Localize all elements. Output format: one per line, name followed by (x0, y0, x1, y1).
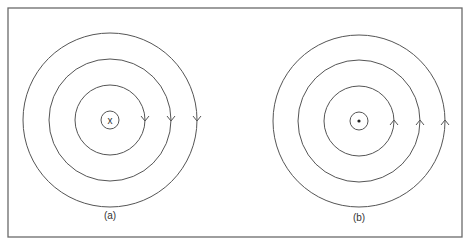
panel-label-a: (a) (104, 210, 116, 221)
panel-b-current-out-of-page: (b) (273, 35, 449, 223)
panel-label-b: (b) (353, 212, 365, 223)
cross-icon: x (108, 115, 113, 126)
panel-a-current-into-page: x (a) (23, 33, 201, 221)
dot-icon (357, 119, 360, 122)
magnetic-field-diagram: x (a) (b) (0, 0, 471, 250)
